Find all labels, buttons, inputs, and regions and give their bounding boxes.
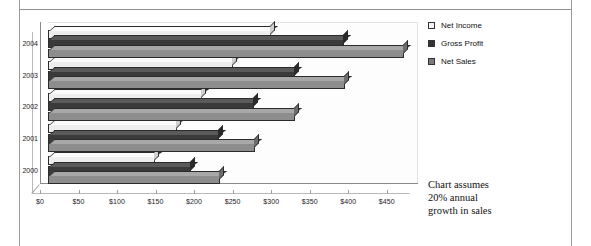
x-tick [310, 190, 311, 194]
legend-label: Net Sales [441, 57, 476, 66]
y-axis-category-label: 2004 [14, 40, 38, 47]
chart-note-line-2: 20% annual [428, 191, 568, 204]
y-axis-category-label: 2002 [14, 103, 38, 110]
y-axis-category-label: 2001 [14, 135, 38, 142]
x-tick [387, 190, 388, 194]
x-tick-label: $150 [148, 198, 164, 205]
bar-top-face [49, 152, 162, 157]
bar-net-sales-2002 [48, 112, 295, 121]
legend-swatch-icon [428, 22, 435, 29]
x-tick-label: $450 [379, 198, 395, 205]
legend-label: Net Income [441, 21, 482, 30]
top-divider-rule [20, 9, 571, 10]
chart-note-line-1: Chart assumes [428, 178, 568, 191]
x-tick-label: $0 [36, 198, 44, 205]
bar-top-face [49, 108, 302, 113]
bar-top-face [49, 139, 261, 144]
bar-net-sales-2003 [48, 80, 345, 89]
plot-area: $0$50$100$150$200$250$300$350$400$450 20… [40, 22, 418, 194]
y-axis-line-back [40, 22, 41, 184]
chart-note: Chart assumes 20% annual growth in sales [428, 178, 568, 217]
x-tick-label: $50 [73, 198, 85, 205]
bar-top-face [49, 26, 278, 31]
x-tick-label: $200 [186, 198, 202, 205]
frame-right-rule [571, 0, 572, 246]
x-tick [348, 190, 349, 194]
chart-figure: $0$50$100$150$200$250$300$350$400$450 20… [0, 0, 591, 246]
x-tick [233, 190, 234, 194]
bar-top-face [49, 130, 226, 135]
bar-top-face [49, 171, 227, 176]
x-tick [271, 190, 272, 194]
x-tick [79, 190, 80, 194]
bar-top-face [49, 45, 411, 50]
legend-swatch-icon [428, 58, 435, 65]
x-tick-label: $400 [340, 198, 356, 205]
bar-net-sales-2000 [48, 175, 220, 184]
x-tick-label: $300 [263, 198, 279, 205]
x-tick [40, 190, 41, 194]
legend-label: Gross Profit [441, 39, 483, 48]
x-tick-label: $250 [225, 198, 241, 205]
x-tick-label: $100 [109, 198, 125, 205]
bar-top-face [49, 162, 198, 167]
bar-net-sales-2004 [48, 49, 404, 58]
bar-top-face [49, 98, 261, 103]
legend-item-net-income[interactable]: Net Income [428, 18, 483, 32]
y-axis-category-label: 2003 [14, 72, 38, 79]
y-axis-category-label: 2000 [14, 167, 38, 174]
bar-top-face [49, 35, 351, 40]
x-tick [194, 190, 195, 194]
bar-top-face [49, 57, 240, 62]
bar-top-face [49, 67, 302, 72]
chart-legend: Net IncomeGross ProfitNet Sales [428, 18, 483, 72]
bar-top-face [49, 76, 352, 81]
legend-item-gross-profit[interactable]: Gross Profit [428, 36, 483, 50]
legend-item-net-sales[interactable]: Net Sales [428, 54, 483, 68]
legend-swatch-icon [428, 40, 435, 47]
x-axis-line-front [32, 193, 410, 194]
bar-top-face [49, 120, 184, 125]
x-tick [117, 190, 118, 194]
frame-left-rule [19, 0, 20, 246]
bar-net-sales-2001 [48, 143, 255, 152]
chart-note-line-3: growth in sales [428, 204, 568, 217]
bar-top-face [49, 89, 209, 94]
x-tick [156, 190, 157, 194]
x-tick-label: $350 [302, 198, 318, 205]
